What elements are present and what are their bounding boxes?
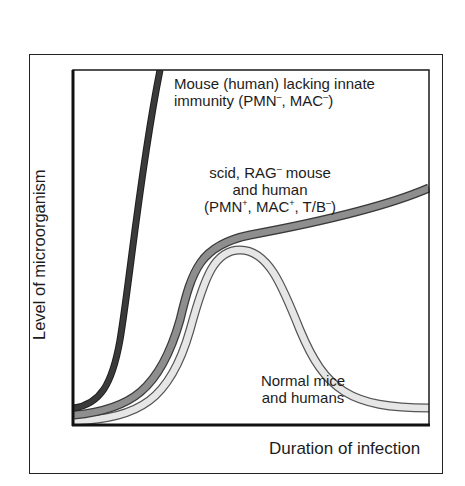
label-line: and humans: [255, 389, 351, 406]
label-scid-rag: scid, RAG– mouseand human(PMN+, MAC+, T/…: [200, 164, 340, 215]
label-normal: Normal miceand humans: [255, 372, 351, 406]
curve-layer: [74, 70, 429, 421]
label-line: Mouse (human) lacking innate: [174, 75, 375, 92]
label-line: Normal mice: [255, 372, 351, 389]
label-line: immunity (PMN–, MAC–): [174, 92, 375, 109]
curve-no-innate: [74, 70, 160, 408]
y-axis-label: Level of microorganism: [30, 169, 49, 340]
x-axis-label: Duration of infection: [269, 439, 420, 459]
label-line: scid, RAG– mouse: [200, 164, 340, 181]
label-no-innate: Mouse (human) lacking innateimmunity (PM…: [174, 75, 375, 109]
label-line: (PMN+, MAC+, T/B–): [200, 198, 340, 215]
plot-area: [0, 0, 465, 486]
label-line: and human: [200, 181, 340, 198]
